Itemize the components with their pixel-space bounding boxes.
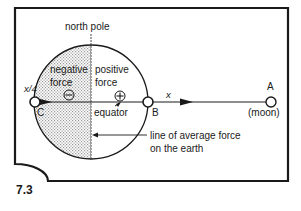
negative-force-label-1: negative bbox=[50, 64, 88, 75]
equator-label: equator bbox=[94, 107, 129, 118]
figure-number: 7.3 bbox=[16, 183, 33, 197]
point-c-label: C bbox=[37, 107, 44, 118]
north-pole-label: north pole bbox=[65, 21, 110, 32]
positive-symbol-icon bbox=[115, 91, 125, 101]
average-force-label-1: line of average force bbox=[150, 130, 241, 141]
negative-force-label-2: force bbox=[50, 77, 73, 88]
arrow-b-icon bbox=[180, 99, 193, 106]
x4-label: x/4 bbox=[23, 83, 37, 94]
tidal-force-diagram: north pole negative force positive force… bbox=[0, 0, 301, 211]
moon-label: (moon) bbox=[248, 107, 280, 118]
point-a-label: A bbox=[267, 81, 274, 92]
average-force-pointer-arrow-icon bbox=[92, 133, 98, 138]
positive-force-label-2: force bbox=[95, 77, 118, 88]
point-a-moon bbox=[266, 97, 276, 107]
point-c bbox=[30, 97, 40, 107]
point-b-label: B bbox=[152, 107, 159, 118]
average-force-label-2: on the earth bbox=[150, 143, 203, 154]
point-b bbox=[143, 97, 153, 107]
positive-force-label-1: positive bbox=[95, 64, 129, 75]
x-label: x bbox=[165, 89, 172, 100]
